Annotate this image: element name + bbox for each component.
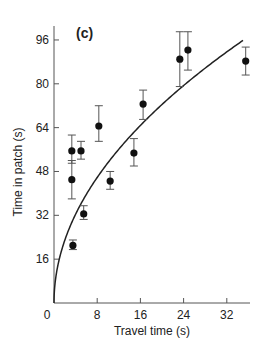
y-tick-label: 96 <box>36 33 50 47</box>
data-points <box>68 32 250 250</box>
data-point <box>139 90 147 119</box>
data-point <box>77 141 85 159</box>
y-tick-label: 80 <box>36 77 50 91</box>
data-point <box>176 32 184 87</box>
data-point <box>69 240 77 250</box>
data-point <box>184 32 192 70</box>
data-point <box>68 161 76 199</box>
y-tick-label: 48 <box>36 164 50 178</box>
data-point <box>80 206 88 220</box>
x-tick-label: 24 <box>177 308 191 322</box>
data-point <box>68 135 76 163</box>
fit-curve <box>54 40 243 303</box>
x-tick-label: 32 <box>220 308 234 322</box>
y-tick-label: 16 <box>36 252 50 266</box>
x-axis-label: Travel time (s) <box>114 324 190 338</box>
x-tick-label: 0 <box>44 308 51 322</box>
y-tick-label: 32 <box>36 208 50 222</box>
axes: 08162432163248648096 <box>36 26 250 322</box>
y-axis-label: Time in patch (s) <box>11 128 25 217</box>
scatter-chart: 08162432163248648096 (c) Travel time (s)… <box>0 0 267 356</box>
data-point <box>106 171 114 189</box>
panel-label: (c) <box>76 25 93 41</box>
y-tick-label: 64 <box>36 121 50 135</box>
data-point <box>130 139 138 166</box>
x-tick-label: 8 <box>94 308 101 322</box>
data-point <box>95 106 103 142</box>
data-point <box>242 47 250 75</box>
x-tick-label: 16 <box>134 308 148 322</box>
